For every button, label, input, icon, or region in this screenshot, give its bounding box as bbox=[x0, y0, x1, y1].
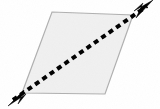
geometry-figure-canvas bbox=[0, 0, 160, 109]
figure-svg bbox=[0, 0, 160, 109]
